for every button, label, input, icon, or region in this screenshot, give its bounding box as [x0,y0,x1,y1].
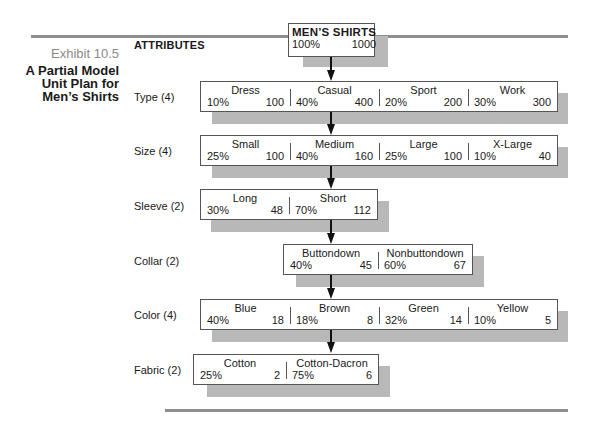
cell-count: 100 [444,150,462,163]
cell-name: X-Large [474,138,551,150]
sleeve-cell-long: Long30%48 [201,190,289,219]
root-name: MEN’S SHIRTS [292,26,376,38]
exhibit-number: Exhibit 10.5 [51,46,119,61]
attribute-label-fabric: Fabric (2) [134,364,181,376]
cell-count: 400 [355,96,373,109]
cell-percent: 25% [200,369,222,382]
color-cell-green: Green32%14 [379,300,468,329]
cell-count: 14 [450,314,462,327]
color-cell-brown: Brown18%8 [290,300,379,329]
cell-percent: 20% [385,96,407,109]
cell-percent: 75% [292,369,314,382]
cell-name: Blue [207,302,284,314]
fabric-node: Cotton25%2 Cotton-Dacron75%6 [193,354,379,385]
cell-values: 30%300 [474,96,551,109]
cell-count: 160 [355,150,373,163]
cell-count: 18 [272,314,284,327]
cell-percent: 70% [295,204,317,217]
attribute-label-collar: Collar (2) [134,255,179,267]
cell-percent: 30% [207,204,229,217]
cell-name: Casual [296,84,373,96]
cell-count: 8 [367,314,373,327]
cell-values: 60%67 [384,259,466,272]
cell-values: 18%8 [296,314,373,327]
cell-count: 67 [454,259,466,272]
cell-percent: 40% [290,259,312,272]
collar-cell-buttondown: Buttondown40%45 [284,245,378,274]
cell-count: 112 [353,204,371,217]
cell-count: 300 [533,96,551,109]
cell-values: 10%100 [207,96,284,109]
cell-count: 200 [444,96,462,109]
cell-count: 40 [539,150,551,163]
exhibit-title: A Partial Model Unit Plan for Men’s Shir… [26,64,119,103]
cell-name: Short [295,192,371,204]
exhibit-title-line: Men’s Shirts [26,90,119,103]
fabric-cell-cotton: Cotton25%2 [194,355,286,384]
cell-percent: 32% [385,314,407,327]
cell-values: 10%5 [474,314,551,327]
type-cell-work: Work30%300 [468,82,557,111]
cell-name: Nonbuttondown [384,247,466,259]
cell-name: Yellow [474,302,551,314]
cell-values: 30%48 [207,204,283,217]
cell-percent: 10% [474,150,496,163]
cell-percent: 10% [207,96,229,109]
cell-name: Green [385,302,462,314]
cell-count: 5 [545,314,551,327]
sleeve-cell-short: Short70%112 [289,190,377,219]
cell-values: 25%2 [200,369,280,382]
size-cell-small: Small25%100 [201,136,290,165]
cell-count: 100 [266,150,284,163]
size-cell-xlarge: X-Large10%40 [468,136,557,165]
cell-percent: 60% [384,259,406,272]
type-cell-sport: Sport20%200 [379,82,468,111]
cell-values: 20%200 [385,96,462,109]
cell-percent: 10% [474,314,496,327]
root-count: 1000 [352,38,376,51]
color-node: Blue40%18 Brown18%8 Green32%14 Yellow10%… [200,299,558,330]
cell-name: Medium [296,138,373,150]
cell-name: Long [207,192,283,204]
cell-name: Work [474,84,551,96]
size-node: Small25%100 Medium40%160 Large25%100 X-L… [200,135,558,166]
cell-values: 75%6 [292,369,372,382]
cell-values: 40%160 [296,150,373,163]
collar-cell-nonbuttondown: Nonbuttondown60%67 [378,245,472,274]
root-percent: 100% [292,38,320,51]
bottom-rule [165,409,568,412]
cell-name: Brown [296,302,373,314]
cell-percent: 25% [385,150,407,163]
attributes-heading: ATTRIBUTES [134,39,205,51]
cell-values: 70%112 [295,204,371,217]
cell-count: 2 [274,369,280,382]
cell-values: 10%40 [474,150,551,163]
cell-name: Cotton-Dacron [292,357,372,369]
cell-percent: 25% [207,150,229,163]
cell-name: Large [385,138,462,150]
cell-percent: 40% [207,314,229,327]
type-node: Dress10%100 Casual40%400 Sport20%200 Wor… [200,81,558,112]
type-cell-casual: Casual40%400 [290,82,379,111]
cell-values: 40%18 [207,314,284,327]
cell-count: 100 [266,96,284,109]
root-values: 100% 1000 [292,38,376,51]
attribute-label-color: Color (4) [134,309,177,321]
cell-values: 40%400 [296,96,373,109]
cell-values: 32%14 [385,314,462,327]
cell-percent: 18% [296,314,318,327]
cell-name: Sport [385,84,462,96]
cell-percent: 40% [296,150,318,163]
cell-values: 25%100 [385,150,462,163]
fabric-cell-cotton-dacron: Cotton-Dacron75%6 [286,355,378,384]
size-cell-large: Large25%100 [379,136,468,165]
color-cell-yellow: Yellow10%5 [468,300,557,329]
attribute-label-type: Type (4) [134,91,174,103]
attribute-label-sleeve: Sleeve (2) [134,200,184,212]
cell-percent: 40% [296,96,318,109]
cell-count: 48 [271,204,283,217]
cell-count: 6 [366,369,372,382]
cell-name: Buttondown [290,247,372,259]
root-cell: MEN’S SHIRTS 100% 1000 [289,24,379,56]
attribute-label-size: Size (4) [134,145,172,157]
